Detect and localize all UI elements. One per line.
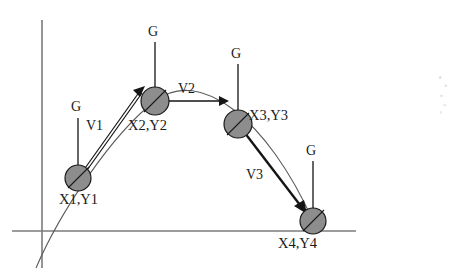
coord-label-1: X1,Y1 [59,192,98,207]
g-label-1: G [71,100,81,114]
g-label-3: G [231,47,241,61]
g-label-2: G [148,25,158,39]
v1-shaft-double [80,93,142,180]
velocity-vector-v1 [78,86,145,180]
v-label-2: V2 [178,82,195,96]
ball-4 [300,208,326,234]
v3-shaft [238,124,300,205]
coord-label-2: X2,Y2 [128,118,167,133]
v-label-3: V3 [246,168,263,182]
v2-arrowhead [219,96,229,106]
ball-3 [224,110,252,138]
ball-2 [141,87,169,115]
v1-shaft [78,91,140,178]
v-label-1: V1 [86,119,103,133]
coord-label-3: X3,Y3 [249,108,288,123]
scan-speckle-artifact [436,72,450,118]
g-label-4: G [306,144,316,158]
projectile-motion-figure: G G G G V1 V2 V3 X1,Y1 X2,Y2 X3,Y3 X4,Y4 [0,0,457,276]
coord-label-4: X4,Y4 [278,236,317,251]
ball-1 [65,165,91,191]
figure-canvas [0,0,457,276]
